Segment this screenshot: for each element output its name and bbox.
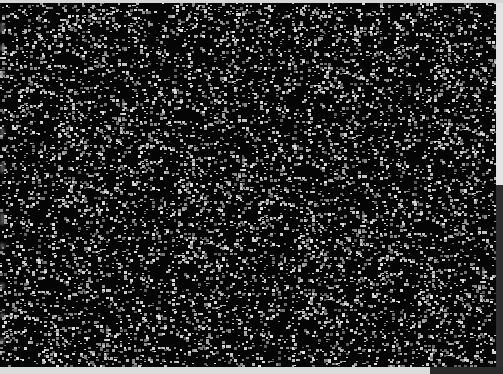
edge-mark xyxy=(0,45,5,51)
edge-mark xyxy=(0,23,5,33)
left-edge-marks xyxy=(0,3,6,367)
edge-mark xyxy=(0,283,5,289)
edge-mark xyxy=(0,338,5,344)
noise-canvas xyxy=(0,3,496,367)
right-side-panel xyxy=(496,185,503,374)
edge-mark xyxy=(0,71,5,77)
static-noise-image xyxy=(0,3,496,367)
right-border-upper xyxy=(496,3,503,185)
bottom-right-block xyxy=(430,367,503,374)
edge-mark xyxy=(0,313,5,318)
bottom-border xyxy=(0,367,503,374)
edge-mark xyxy=(0,243,5,249)
edge-mark xyxy=(0,213,5,225)
edge-mark xyxy=(0,128,5,136)
edge-mark xyxy=(0,163,5,173)
